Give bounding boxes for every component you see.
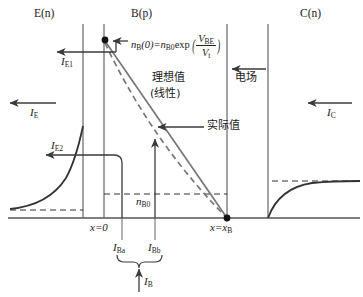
region-label-emitter: E(n) (34, 8, 54, 20)
ie1-sub: E1 (65, 60, 73, 69)
x-xb-sub: B (227, 226, 232, 235)
formula-frac-num-sub: BE (205, 37, 215, 46)
ie-sub: E (34, 111, 39, 120)
ib-label: IB (144, 276, 153, 287)
formula-lhs-sub: B (136, 43, 141, 52)
ibb-label: IBb (148, 242, 160, 253)
nB0-base: n (136, 195, 142, 207)
x-xb-label: x=xB (210, 222, 232, 233)
ib-brace (117, 255, 162, 268)
nB0-label: nB0 (136, 196, 150, 207)
x-xb-base: x=x (210, 221, 227, 233)
ie2-arrow-path (46, 155, 122, 218)
formula-frac-num: V (198, 33, 204, 44)
emitter-minority-curve (10, 126, 83, 209)
ib-sub: B (148, 280, 153, 289)
x-zero-label: x=0 (90, 222, 108, 233)
nB0-boundary-point (102, 37, 109, 44)
ie2-sub: E2 (55, 144, 63, 153)
ibb-sub: Bb (152, 246, 161, 255)
ie-label: IE (30, 107, 38, 118)
iba-label: IBa (113, 242, 125, 253)
region-label-collector: C(n) (300, 8, 321, 20)
ideal-value-label-line1: 理想值 (152, 72, 185, 83)
collector-minority-curve (268, 181, 360, 218)
ie1-label: IE1 (61, 56, 73, 67)
ic-label: IC (327, 107, 336, 118)
region-label-base: B(p) (131, 8, 152, 20)
iba-sub: Ba (117, 246, 125, 255)
formula-lhs-arg: (0)= (141, 39, 160, 50)
formula-rhs-sub: B0 (166, 43, 175, 52)
nB0-sub: B0 (142, 200, 151, 209)
ideal-value-label-line2: (线性) (150, 88, 181, 99)
actual-value-label: 实际值 (207, 120, 240, 131)
formula-exp: exp (175, 39, 190, 50)
boundary-concentration-formula: nB(0)=nB0exp( VBE Vt ) (131, 33, 221, 58)
figure-canvas: E(n) B(p) C(n) nB(0)=nB0exp( VBE Vt ) 理想… (0, 0, 363, 297)
electric-field-label: 电场 (235, 72, 257, 83)
ie2-label: IE2 (51, 140, 63, 151)
ic-sub: C (331, 111, 336, 120)
